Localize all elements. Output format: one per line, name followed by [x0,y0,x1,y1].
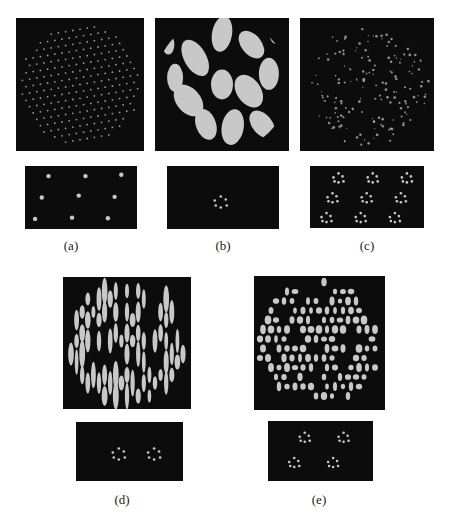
sparse-dot [318,57,320,59]
lattice-dot [50,116,52,118]
lattice-dot [86,124,88,126]
sparse-dot [321,91,322,92]
lattice-dot [76,105,78,107]
panel-c-reconstruction-graphic [310,166,424,228]
lattice-dot [101,94,103,96]
lattice-dot [43,90,45,92]
elongated-blob [158,303,163,321]
sparse-dot [375,85,377,87]
reconstruction-spot [371,172,374,175]
lattice-dot [97,129,99,131]
lattice-dot [72,112,74,114]
elongated-blob [176,329,180,353]
lattice-dot [58,87,60,89]
reconstruction-spot [213,199,216,202]
lattice-dot [101,52,103,54]
lattice-dot [43,103,45,105]
sparse-dot [337,120,339,122]
lattice-dot [58,129,60,131]
reconstruction-spot [325,221,328,224]
elliptical-dot [338,373,342,381]
sparse-dot [394,75,397,78]
reconstruction-spot [369,195,372,198]
reconstruction-spot [77,193,81,197]
elongated-blob [170,343,174,366]
reconstruction-spot [46,174,50,178]
elliptical-dot [269,307,274,314]
lattice-dot [122,118,124,120]
reconstruction-spot [123,450,126,453]
reconstruction-spot [400,201,403,204]
lattice-dot [65,100,67,102]
lattice-dot [101,135,103,137]
lattice-dot [79,139,81,141]
reconstruction-spot [320,216,323,219]
lattice-dot [97,88,99,90]
sparse-dot [373,120,375,122]
elliptical-dot [325,383,329,389]
lattice-dot [40,42,42,44]
elliptical-dot [321,336,327,341]
lattice-dot [108,120,110,122]
elliptical-dot [290,298,295,304]
elongated-blob [85,311,91,328]
sparse-dot [342,116,344,118]
sparse-dot [424,103,426,105]
elliptical-dot [354,296,358,305]
lattice-dot [94,123,96,125]
lattice-dot [83,62,85,64]
elliptical-dot [289,316,294,323]
lattice-dot [108,93,110,95]
lattice-dot [68,79,70,81]
reconstruction-spot [225,204,228,207]
lattice-dot [97,74,99,76]
lattice-dot [79,70,81,72]
lattice-dot [126,110,128,112]
sparse-dot [373,74,374,75]
panel-d-reconstruction [76,422,183,481]
sparse-dot [368,72,370,74]
sparse-dot [381,38,382,39]
reconstruction-spot [327,461,330,464]
sparse-dot [378,116,380,118]
lattice-dot [137,74,139,76]
lattice-dot [130,103,132,105]
lattice-dot [119,98,121,100]
elliptical-dot [338,298,342,303]
elongated-blob [158,324,163,341]
lattice-dot [47,41,49,43]
elliptical-dot [341,307,345,314]
panel-e-caption: (e) [299,492,339,508]
sparse-dot [334,52,336,54]
sparse-dot [390,38,392,40]
elliptical-dot [341,384,345,389]
reconstruction-spot [363,215,366,218]
sparse-dot [326,53,328,55]
lattice-dot [83,118,85,120]
lattice-dot [32,85,34,87]
sparse-dot [427,80,430,83]
phase-blob [259,58,279,90]
lattice-dot [119,125,121,127]
elliptical-dot [361,355,366,361]
lattice-dot [108,65,110,67]
sparse-dot [327,95,329,97]
reconstruction-spot [219,206,222,209]
lattice-dot [79,28,81,30]
lattice-dot [122,90,124,92]
sparse-dot [342,49,344,51]
reconstruction-spot [405,200,408,203]
sparse-dot [404,111,406,113]
elongated-blob [164,371,168,394]
panel-a-hologram-graphic [16,18,144,151]
reconstruction-spot [396,200,399,203]
lattice-dot [40,111,42,113]
elliptical-dot [330,317,335,323]
sparse-dot [389,101,391,103]
phase-blob [219,107,247,146]
elliptical-dot [314,335,319,343]
elliptical-dot [356,363,362,372]
elliptical-dot [297,316,303,323]
lattice-dot [61,94,63,96]
lattice-dot [108,79,110,81]
